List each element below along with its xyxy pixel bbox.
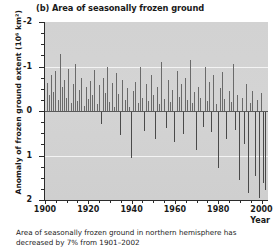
bar (140, 67, 141, 111)
bar (116, 73, 117, 111)
bar (179, 97, 180, 111)
x-tick-minor (67, 200, 68, 203)
bar (64, 80, 65, 111)
bar (58, 100, 59, 111)
bar (209, 82, 210, 111)
bar (203, 111, 204, 127)
bar (237, 95, 238, 111)
x-tick-minor (251, 200, 252, 203)
x-tick-label: 1980 (198, 205, 238, 214)
x-tick-label: 1900 (25, 205, 65, 214)
bar (77, 101, 78, 111)
bar (127, 88, 128, 111)
y-tick-label: -1 (6, 62, 32, 71)
bar (198, 87, 199, 111)
bar (142, 98, 143, 111)
bar (177, 71, 178, 111)
x-tick-minor (99, 200, 100, 203)
y-tick (39, 111, 44, 112)
figure-panel-b: (b) Area of seasonally frozen ground Ano… (0, 0, 273, 252)
bar (194, 92, 195, 111)
x-tick-label: 1960 (155, 205, 195, 214)
bar (168, 80, 169, 111)
bar (244, 111, 245, 144)
x-tick-label: 1940 (112, 205, 152, 214)
y-tick-minor (41, 89, 44, 90)
bar (252, 91, 253, 111)
y-axis-line (44, 22, 45, 200)
bar (71, 103, 72, 111)
x-tick-label: 2000 (242, 205, 274, 214)
bar (265, 111, 266, 190)
bar (86, 87, 87, 111)
bar (99, 85, 100, 111)
bar (196, 111, 197, 150)
bar (148, 101, 149, 111)
x-tick-minor (153, 200, 154, 203)
x-tick-minor (56, 200, 57, 203)
y-tick-minor (41, 178, 44, 179)
bar (66, 98, 67, 111)
x-tick-minor (121, 200, 122, 203)
bar (183, 111, 184, 134)
bar (259, 111, 260, 198)
bar (246, 84, 247, 111)
bar (261, 93, 262, 111)
y-tick-minor (41, 44, 44, 45)
gridline (45, 156, 268, 157)
bar (233, 64, 234, 111)
x-tick-minor (186, 200, 187, 203)
bar (220, 88, 221, 111)
x-tick-minor (207, 200, 208, 203)
bar (166, 111, 167, 128)
bar (159, 104, 160, 111)
bar (235, 111, 236, 130)
bar (138, 103, 139, 111)
y-tick-minor (41, 189, 44, 190)
y-tick-minor (41, 55, 44, 56)
y-tick (39, 156, 44, 157)
bar (157, 87, 158, 111)
bar (174, 111, 175, 142)
y-tick-label: 1 (6, 151, 32, 160)
bar (118, 94, 119, 111)
bar (109, 102, 110, 111)
bar (90, 81, 91, 111)
x-tick-minor (229, 200, 230, 203)
x-tick-minor (164, 200, 165, 203)
caption-line-1: Area of seasonally frozen ground in nort… (16, 228, 177, 237)
gridline (45, 67, 268, 68)
bar (55, 71, 56, 111)
x-tick-minor (197, 200, 198, 203)
bar (213, 75, 214, 111)
bar (107, 67, 108, 112)
y-tick-minor (41, 144, 44, 145)
bar (170, 102, 171, 111)
bar (133, 91, 134, 111)
bar (190, 60, 191, 111)
plot-area (45, 22, 268, 200)
bar (120, 111, 121, 135)
bar (161, 62, 162, 111)
bar (153, 95, 154, 111)
bar (103, 78, 104, 111)
figure-caption: Area of seasonally frozen ground in nort… (16, 228, 266, 247)
x-tick-minor (77, 200, 78, 203)
y-tick (39, 67, 44, 68)
bar (125, 100, 126, 111)
bar (101, 111, 102, 124)
y-tick-label: -2 (6, 17, 32, 26)
x-tick (218, 200, 219, 204)
y-tick-minor (41, 167, 44, 168)
y-tick (39, 22, 44, 23)
x-tick-minor (240, 200, 241, 203)
bar (222, 72, 223, 111)
bar (224, 99, 225, 111)
bar (94, 70, 95, 111)
bar (226, 111, 227, 139)
y-tick-label: 0 (6, 106, 32, 115)
bar (242, 98, 243, 111)
bar (255, 111, 256, 176)
bar (47, 83, 48, 111)
bar (200, 98, 201, 111)
